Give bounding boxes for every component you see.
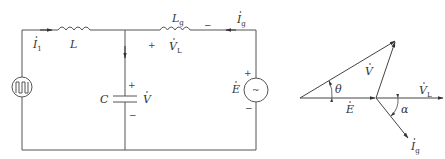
label-E: E	[231, 83, 240, 96]
diagram-canvas: L Lg I1 Ig C + − V + VL − ~	[0, 0, 445, 159]
phasor-dot-e-icon	[235, 81, 237, 83]
phasor-dot-pe-icon	[349, 101, 351, 103]
circuit-schematic: L Lg I1 Ig C + − V + VL − ~	[12, 11, 268, 150]
inverter-source	[12, 77, 32, 97]
vector-V	[300, 41, 395, 98]
phasor-diagram: θ α V E VL Ig	[300, 41, 443, 155]
square-wave-icon	[16, 82, 28, 93]
label-phasor-VL: VL	[419, 84, 432, 99]
label-theta: θ	[335, 83, 342, 96]
label-i1: I1	[32, 38, 42, 53]
label-C: C	[100, 93, 109, 106]
label-ig: Ig	[236, 13, 246, 28]
angle-theta-arc	[329, 81, 332, 98]
label-phasor-V: V	[365, 65, 374, 78]
cap-minus-sign: −	[129, 110, 137, 120]
phasor-dot-pig-icon	[414, 138, 416, 140]
tilde-icon: ~	[252, 85, 260, 95]
phasor-dot-pv-icon	[369, 63, 371, 65]
phasor-dot-i1-icon	[36, 36, 38, 38]
phasor-dot-vl-icon	[173, 38, 175, 40]
phasor-dot-ig-icon	[240, 11, 242, 13]
capacitor	[113, 96, 137, 102]
grid-source: ~	[244, 78, 268, 102]
label-phasor-E: E	[345, 103, 354, 116]
label-phasor-Ig: Ig	[410, 140, 420, 155]
vl-minus-sign: −	[204, 20, 212, 30]
label-V: V	[143, 93, 152, 106]
vl-plus-sign: +	[148, 40, 156, 50]
inductor-L	[58, 27, 90, 30]
label-Lg: Lg	[171, 12, 184, 27]
cap-plus-sign: +	[128, 80, 136, 90]
label-alpha: α	[401, 103, 409, 116]
phasor-dot-pvl-icon	[423, 82, 425, 84]
phasor-dot-v-icon	[146, 91, 148, 93]
angle-alpha-arc	[391, 98, 398, 116]
label-VL: VL	[169, 40, 182, 55]
e-minus-sign: −	[245, 103, 253, 113]
label-L: L	[69, 38, 77, 51]
e-plus-sign: +	[244, 68, 252, 78]
inductor-Lg	[160, 27, 190, 30]
